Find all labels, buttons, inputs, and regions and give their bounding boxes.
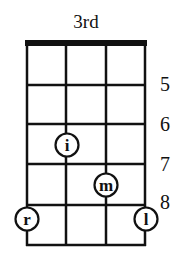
finger-dot-ring: r: [16, 208, 39, 231]
strings: [27, 44, 145, 246]
fret-number-7: 7: [155, 154, 175, 174]
finger-label: r: [23, 210, 31, 229]
finger-label: i: [65, 136, 70, 155]
fret-number-6: 6: [155, 114, 175, 134]
finger-dot-index: i: [56, 134, 79, 157]
finger-label: l: [144, 210, 149, 229]
finger-label: m: [99, 176, 113, 195]
fret-number-8: 8: [155, 192, 175, 212]
finger-dot-middle: m: [95, 174, 118, 197]
frets: [26, 85, 146, 245]
nut-bar: [25, 40, 147, 46]
fret-number-5: 5: [155, 74, 175, 94]
